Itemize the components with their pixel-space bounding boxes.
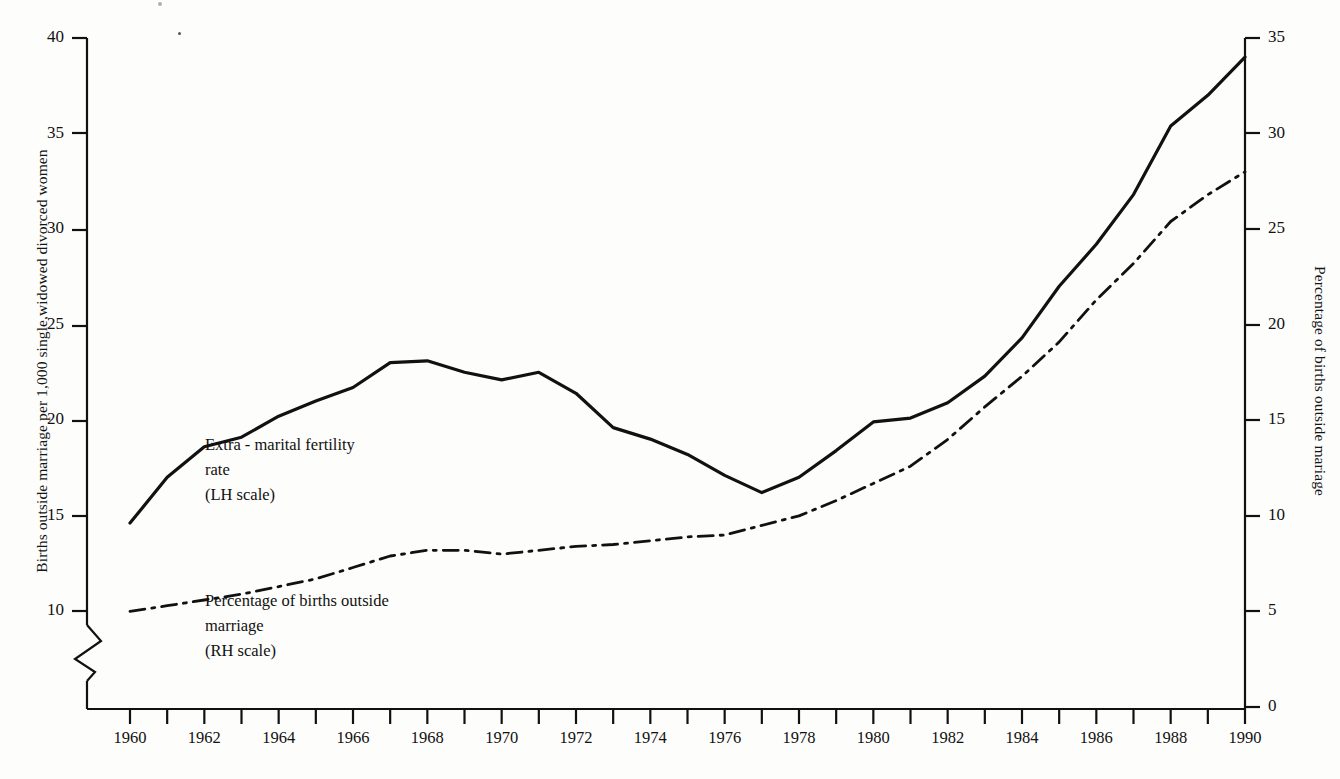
percentage-births-outside-marriage-label-line-3: (RH scale) bbox=[205, 638, 389, 663]
right-axis-ticks bbox=[1245, 38, 1260, 707]
x-tick-label-1982: 1982 bbox=[913, 728, 983, 748]
x-tick-label-1986: 1986 bbox=[1061, 728, 1131, 748]
x-tick-label-1978: 1978 bbox=[764, 728, 834, 748]
x-tick-label-1960: 1960 bbox=[95, 728, 165, 748]
axis-break-zigzag bbox=[75, 625, 101, 681]
right-tick-label-10: 10 bbox=[1268, 505, 1285, 525]
chart-canvas bbox=[0, 0, 1340, 779]
percentage-births-outside-marriage-label: Percentage of births outsidemarriage(RH … bbox=[205, 588, 389, 663]
series-line-percentage-births-outside-marriage bbox=[130, 172, 1245, 612]
x-tick-label-1962: 1962 bbox=[169, 728, 239, 748]
extra-marital-fertility-label-line-1: Extra - marital fertility bbox=[205, 432, 355, 457]
left-axis-title: Births outside marriage per 1,000 single… bbox=[33, 61, 51, 661]
left-tick-label-20: 20 bbox=[32, 409, 64, 429]
x-tick-label-1966: 1966 bbox=[318, 728, 388, 748]
x-tick-label-1990: 1990 bbox=[1210, 728, 1280, 748]
x-tick-label-1968: 1968 bbox=[392, 728, 462, 748]
left-tick-label-30: 30 bbox=[32, 218, 64, 238]
right-axis-title: Percentage of births outside mariage bbox=[1311, 81, 1329, 681]
left-tick-label-10: 10 bbox=[32, 600, 64, 620]
bottom-axis-ticks bbox=[130, 709, 1245, 724]
x-tick-label-1970: 1970 bbox=[467, 728, 537, 748]
left-tick-label-40: 40 bbox=[32, 27, 64, 47]
extra-marital-fertility-label-line-2: rate bbox=[205, 457, 355, 482]
percentage-births-outside-marriage-label-line-2: marriage bbox=[205, 613, 389, 638]
right-tick-label-35: 35 bbox=[1268, 27, 1285, 47]
x-tick-label-1964: 1964 bbox=[244, 728, 314, 748]
percentage-births-outside-marriage-label-line-1: Percentage of births outside bbox=[205, 588, 389, 613]
right-tick-label-0: 0 bbox=[1268, 696, 1277, 716]
right-tick-label-15: 15 bbox=[1268, 409, 1285, 429]
extra-marital-fertility-label: Extra - marital fertilityrate(LH scale) bbox=[205, 432, 355, 507]
x-tick-label-1972: 1972 bbox=[541, 728, 611, 748]
right-tick-label-5: 5 bbox=[1268, 600, 1277, 620]
x-tick-label-1980: 1980 bbox=[838, 728, 908, 748]
x-tick-label-1988: 1988 bbox=[1136, 728, 1206, 748]
left-tick-label-15: 15 bbox=[32, 505, 64, 525]
right-tick-label-25: 25 bbox=[1268, 218, 1285, 238]
left-tick-label-35: 35 bbox=[32, 123, 64, 143]
right-tick-label-20: 20 bbox=[1268, 314, 1285, 334]
x-tick-label-1974: 1974 bbox=[615, 728, 685, 748]
right-tick-label-30: 30 bbox=[1268, 123, 1285, 143]
left-axis-ticks bbox=[72, 38, 87, 611]
left-tick-label-25: 25 bbox=[32, 314, 64, 334]
x-tick-label-1976: 1976 bbox=[690, 728, 760, 748]
x-tick-label-1984: 1984 bbox=[987, 728, 1057, 748]
extra-marital-fertility-label-line-3: (LH scale) bbox=[205, 482, 355, 507]
